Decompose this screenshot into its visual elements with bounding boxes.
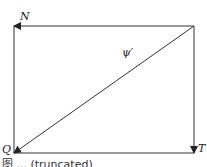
- figure-caption: 图 ... (truncated): [2, 158, 93, 167]
- label-t: T: [198, 142, 207, 155]
- label-n: N: [19, 10, 30, 23]
- label-psi: ψ′: [122, 46, 134, 59]
- label-q: Q: [2, 143, 11, 156]
- force-diagram: N ψ′ Q T 图 ... (truncated): [0, 0, 207, 167]
- diagonal-arrow: [14, 26, 194, 153]
